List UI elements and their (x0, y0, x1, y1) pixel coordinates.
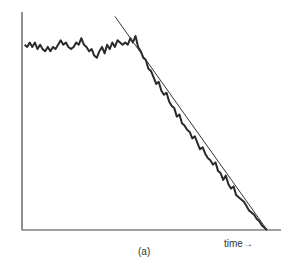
series-layer (25, 16, 268, 230)
chart (0, 0, 294, 270)
fitted-line (115, 16, 267, 230)
signal-line (25, 36, 268, 230)
figure-label: (a) (138, 246, 150, 257)
x-axis-label: time→ (224, 238, 253, 249)
